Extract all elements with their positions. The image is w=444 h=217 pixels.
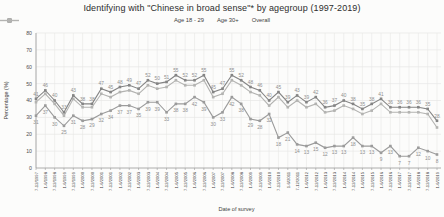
data-point-label: 38 <box>183 108 189 113</box>
data-point-marker <box>81 119 84 122</box>
data-point-label: 38 <box>173 108 179 113</box>
x-axis-tick-label: 1-6/2018 <box>416 171 421 188</box>
data-point-label: 38 <box>350 97 356 102</box>
data-point-label: 50 <box>155 76 161 81</box>
data-point-label: 48 <box>117 80 123 85</box>
data-point-label: 28 <box>434 114 440 119</box>
data-point-marker <box>398 111 401 114</box>
x-axis-tick-label: 1-6/1998 <box>43 171 48 188</box>
x-axis-tick-label: 1-6/2006 <box>192 171 197 188</box>
data-point-label: 46 <box>43 83 49 88</box>
data-point-marker <box>380 98 383 101</box>
data-point-label: 37 <box>332 98 338 103</box>
x-axis-tick-label: 1-6/2001 <box>99 171 104 188</box>
data-point-label: 37 <box>43 110 49 115</box>
data-point-label: 25 <box>61 130 67 135</box>
x-axis-tick-label: 7-12/2015 <box>370 171 375 191</box>
data-point-marker <box>240 79 243 82</box>
x-axis-tick-label: 7-12/2005 <box>183 171 188 191</box>
x-axis-tick-label: 7-12/2017 <box>407 171 412 191</box>
data-point-label: 12 <box>322 152 328 157</box>
data-point-marker <box>333 109 336 112</box>
y-axis-tick-label: 50 <box>26 81 32 87</box>
data-point-marker <box>100 113 103 116</box>
data-point-label: 55 <box>173 68 179 73</box>
data-point-marker <box>380 152 383 155</box>
data-point-label: 45 <box>211 85 217 90</box>
data-point-label: 45 <box>276 85 282 90</box>
x-axis-tick-label: 1-6/2008 <box>230 171 235 188</box>
data-point-label: 47 <box>220 81 226 86</box>
y-axis-tick-label: 80 <box>26 30 32 36</box>
data-point-marker <box>184 79 187 82</box>
data-point-label: 34 <box>108 115 114 120</box>
data-point-marker <box>277 91 280 94</box>
data-point-marker <box>91 106 94 109</box>
x-axis-tick-label: 7-12/1998 <box>52 171 57 191</box>
x-axis-tick-label: 7-12/2008 <box>239 171 244 191</box>
data-point-marker <box>324 106 327 109</box>
data-point-label: 31 <box>71 120 77 125</box>
data-point-marker <box>109 109 112 112</box>
data-point-marker <box>203 79 206 82</box>
x-axis-tick-label: 1-6/2007 <box>211 171 216 188</box>
data-point-marker <box>408 106 411 109</box>
data-point-marker <box>305 101 308 104</box>
data-point-marker <box>296 94 299 97</box>
x-axis-tick-label: 1-6/1999 <box>62 171 67 188</box>
x-axis-tick-label: 7-12/2004 <box>164 171 169 191</box>
data-point-marker <box>333 145 336 148</box>
data-point-label: 28 <box>80 125 86 130</box>
data-point-marker <box>352 108 355 111</box>
data-point-label: 47 <box>136 81 142 86</box>
data-point-marker <box>296 143 299 146</box>
data-point-marker <box>370 145 373 148</box>
data-point-marker <box>305 145 308 148</box>
data-point-marker <box>63 125 66 128</box>
data-point-marker <box>249 91 252 94</box>
data-point-marker <box>165 111 168 114</box>
data-point-marker <box>268 104 271 107</box>
x-axis-tick-label: 7-12/2011 <box>295 171 300 190</box>
data-point-label: 46 <box>257 83 263 88</box>
data-point-marker <box>361 145 364 148</box>
data-point-marker <box>119 86 122 89</box>
data-point-marker <box>389 111 392 114</box>
data-point-marker <box>193 79 196 82</box>
x-axis-tick-label: 7-12/2012 <box>314 171 319 191</box>
data-point-marker <box>370 103 373 106</box>
data-point-label: 37 <box>127 110 133 115</box>
data-point-marker <box>436 126 439 129</box>
x-axis-tick-label: 7-12/2013 <box>332 171 337 191</box>
data-point-marker <box>212 116 215 119</box>
data-point-marker <box>426 113 429 116</box>
data-point-label: 43 <box>294 88 300 93</box>
data-point-label: 39 <box>304 95 310 100</box>
x-axis-tick-label: 7-12/2002 <box>127 171 132 191</box>
data-point-label: 38 <box>80 97 86 102</box>
data-point-marker <box>426 108 429 111</box>
y-axis-tick-label: 30 <box>26 114 32 120</box>
data-point-marker <box>44 104 47 107</box>
data-point-label: 13 <box>304 150 310 155</box>
x-axis-tick-label: 7-12/1997 <box>34 171 39 191</box>
data-point-label: 41 <box>33 92 39 97</box>
x-axis-tick-label: 1-6/2013 <box>323 171 328 188</box>
data-point-marker <box>193 96 196 99</box>
x-axis-tick-label: 1-6/2003 <box>136 171 141 188</box>
data-point-marker <box>286 101 289 104</box>
chart-frame: Identifying with "Chinese in broad sense… <box>0 0 444 217</box>
data-point-marker <box>81 106 84 109</box>
data-point-marker <box>128 84 131 87</box>
data-point-label: 7 <box>398 161 401 166</box>
data-point-label: 36 <box>397 100 403 105</box>
data-point-marker <box>119 91 122 94</box>
data-point-marker <box>221 111 224 114</box>
data-point-label: 33 <box>220 117 226 122</box>
data-point-marker <box>128 89 131 92</box>
data-point-marker <box>175 74 178 77</box>
y-axis-tick-label: 60 <box>26 64 32 70</box>
data-point-marker <box>342 99 345 102</box>
data-point-marker <box>249 118 252 121</box>
data-point-label: 15 <box>313 147 319 152</box>
